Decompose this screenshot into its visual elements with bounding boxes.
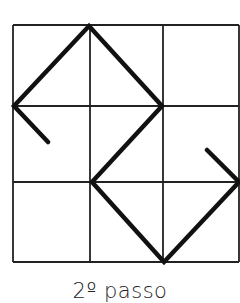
zigzag-path bbox=[14, 26, 239, 262]
caption-step-2: 2º passo bbox=[0, 279, 240, 303]
